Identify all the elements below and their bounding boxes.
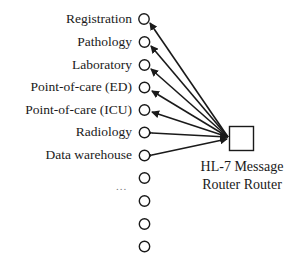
node-circles: [139, 14, 150, 252]
edges: [150, 23, 228, 155]
node-label-pathology: Pathology: [77, 34, 132, 50]
node-circle-unlabeled-4: [139, 241, 149, 251]
edge-poc-ed: [152, 91, 228, 137]
node-circle-poc-icu: [139, 105, 149, 115]
node-label-data-warehouse: Data warehouse: [45, 147, 132, 163]
node-label-radiology: Radiology: [76, 124, 132, 140]
router-label-line2: Router Router: [186, 176, 298, 193]
edge-pathology: [151, 46, 228, 137]
node-circle-poc-ed: [139, 82, 149, 92]
node-label-registration: Registration: [66, 11, 132, 27]
router-label-line1: HL-7 Message: [186, 158, 298, 175]
node-circle-laboratory: [139, 60, 149, 70]
node-label-poc-icu: Point-of-care (ICU): [25, 102, 132, 118]
edge-registration: [150, 23, 228, 137]
node-circle-unlabeled-1: [139, 173, 149, 183]
node-circle-pathology: [139, 37, 149, 47]
node-label-laboratory: Laboratory: [72, 57, 132, 73]
edge-data-warehouse: [152, 139, 227, 155]
node-circle-unlabeled-3: [139, 219, 149, 229]
node-circle-registration: [139, 14, 149, 24]
router-box: [230, 127, 254, 151]
ellipsis-more-nodes: ...: [116, 180, 127, 192]
hl7-router-diagram: [0, 0, 300, 265]
edge-laboratory: [151, 69, 228, 137]
node-label-poc-ed: Point-of-care (ED): [30, 79, 132, 95]
node-circle-radiology: [139, 127, 149, 137]
node-circle-data-warehouse: [139, 150, 149, 160]
node-circle-unlabeled-2: [139, 196, 149, 206]
